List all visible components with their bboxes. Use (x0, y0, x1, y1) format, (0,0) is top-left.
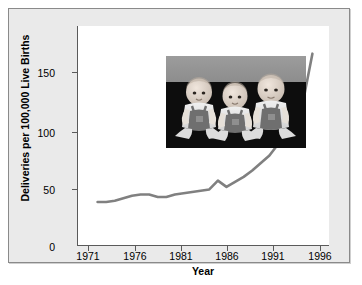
y-axis-title: Deliveries per 100,000 Live Births (19, 0, 31, 243)
x-tick-label-1991: 1991 (253, 250, 293, 262)
y-tick-label-50: 50 (9, 184, 55, 196)
chart-figure: Deliveries per 100,000 Live Births 150 1… (0, 0, 362, 285)
chart-outer-frame: Deliveries per 100,000 Live Births 150 1… (8, 8, 350, 263)
y-tick-label-150: 150 (9, 67, 55, 79)
triplets-photograph (166, 56, 306, 148)
x-tick-label-1976: 1976 (115, 250, 155, 262)
y-tick-label-100: 100 (9, 127, 55, 139)
triplets-photo-graphic (166, 56, 306, 148)
x-tick-label-1981: 1981 (161, 250, 201, 262)
x-tick-label-1986: 1986 (207, 250, 247, 262)
x-axis-title: Year (77, 265, 329, 277)
y-tick-label-0: 0 (9, 241, 55, 253)
x-tick-label-1971: 1971 (68, 250, 108, 262)
x-tick-label-1996: 1996 (300, 250, 340, 262)
plot-area (77, 26, 329, 246)
